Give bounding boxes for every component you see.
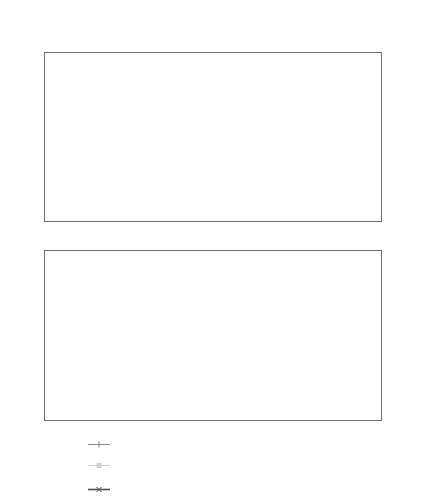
bottom-chart-plot-area [44, 250, 382, 421]
top-chart-plot-area [44, 52, 382, 222]
legend-item-site-a [88, 434, 373, 444]
legend-swatch-site-a [88, 435, 110, 444]
figure-container [0, 0, 435, 502]
legend-swatch-groundwater-level [88, 480, 110, 489]
legend-item-site-b [88, 455, 363, 465]
bottom-chart-svg [45, 251, 383, 422]
top-chart-svg [45, 53, 383, 223]
legend-swatch-site-b [88, 456, 110, 465]
legend-item-groundwater-level [88, 479, 288, 489]
